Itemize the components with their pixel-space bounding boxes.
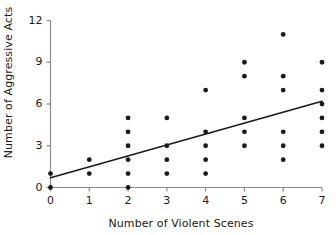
scatter-plot-figure: 01234567 036912 Number of Violent Scenes…	[0, 0, 336, 235]
y-tick-label: 12	[21, 14, 43, 27]
x-tick-label: 5	[232, 194, 256, 207]
axis-tick-marks	[47, 21, 323, 192]
x-tick-label: 6	[271, 194, 295, 207]
axis-lines	[51, 21, 323, 188]
x-tick-label: 4	[194, 194, 218, 207]
y-axis-title: Number of Aggressive Acts	[2, 0, 20, 200]
y-tick-label: 9	[21, 55, 43, 68]
y-tick-label: 3	[21, 139, 43, 152]
trend-line	[51, 101, 323, 178]
x-tick-label: 0	[39, 194, 63, 207]
y-tick-label: 0	[21, 181, 43, 194]
x-axis-title: Number of Violent Scenes	[0, 217, 336, 230]
x-tick-label: 2	[116, 194, 140, 207]
x-tick-label: 1	[77, 194, 101, 207]
x-tick-label: 7	[310, 194, 334, 207]
y-tick-label: 6	[21, 97, 43, 110]
x-tick-label: 3	[155, 194, 179, 207]
